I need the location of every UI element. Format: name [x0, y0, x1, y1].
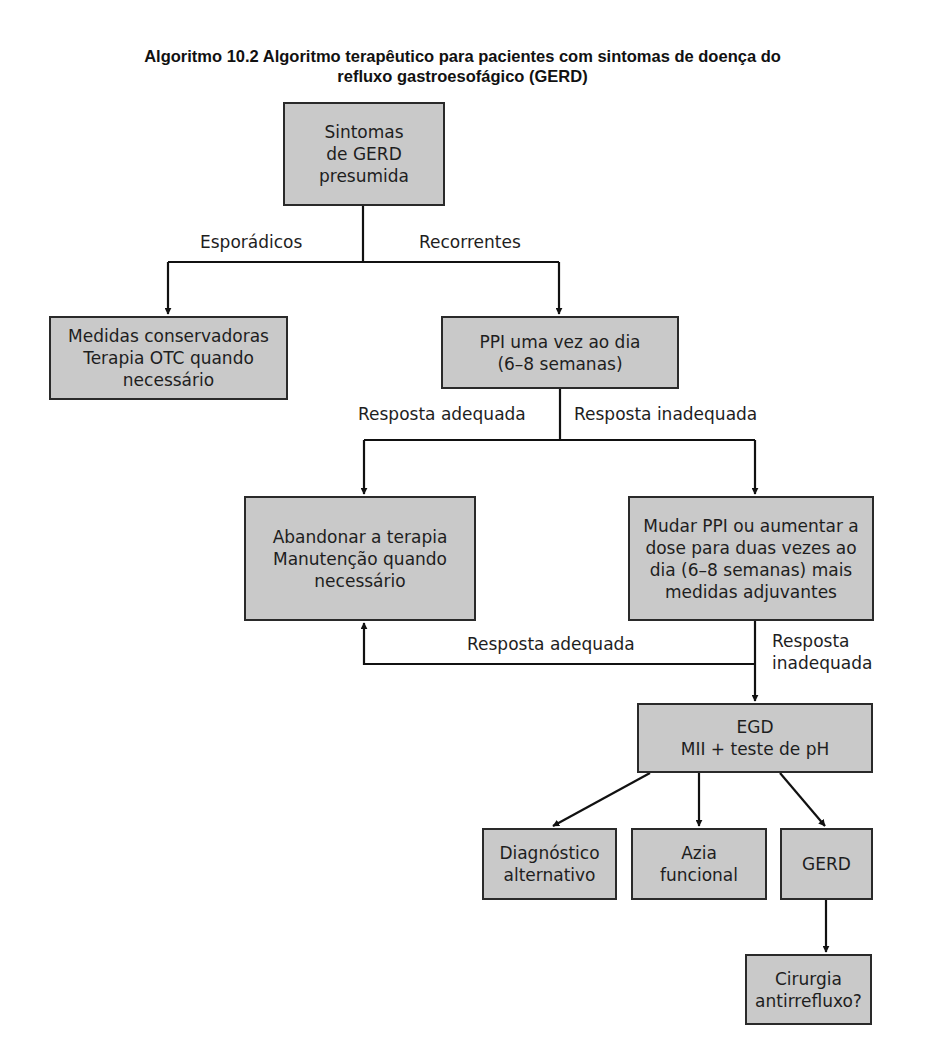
node-surgery: Cirurgia antirrefluxo? [745, 954, 872, 1025]
node-start: Sintomas de GERD presumida [283, 102, 445, 206]
edge-label-inadequate-1: Resposta inadequada [574, 404, 757, 424]
edge-label-adequate-2: Resposta adequada [467, 634, 635, 654]
edge-label-inadequate-2: Resposta inadequada [772, 630, 872, 674]
node-gerd: GERD [780, 828, 873, 900]
edge-label-recurrent: Recorrentes [419, 232, 521, 252]
node-change-ppi: Mudar PPI ou aumentar a dose para duas v… [628, 496, 874, 621]
node-conservative: Medidas conservadoras Terapia OTC quando… [49, 316, 288, 400]
node-egd: EGD MII + teste de pH [637, 703, 873, 773]
node-functional-heartburn: Azia funcional [631, 828, 767, 900]
edge-label-sporadic: Esporádicos [200, 232, 302, 252]
node-ppi-once: PPI uma vez ao dia (6–8 semanas) [441, 316, 679, 389]
node-alt-diagnosis: Diagnóstico alternativo [482, 828, 617, 900]
node-stop-therapy: Abandonar a terapia Manutenção quando ne… [244, 496, 476, 621]
edge-label-adequate-1: Resposta adequada [358, 404, 526, 424]
